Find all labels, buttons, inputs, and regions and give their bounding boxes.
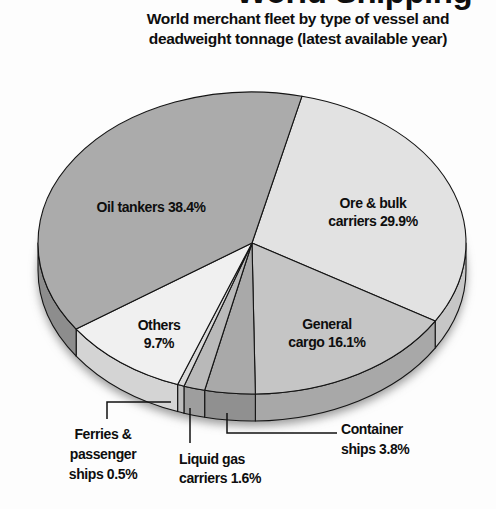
slice-label-oil-tankers: Oil tankers 38.4% bbox=[51, 198, 251, 216]
callout-label-ferries-passenger-ships: Ferries & passenger ships 0.5% bbox=[43, 424, 163, 484]
slice-label-others-line2: 9.7% bbox=[109, 334, 209, 352]
callout-label-ferries-line1: Ferries & bbox=[43, 424, 163, 444]
callout-label-liquid-line2: carriers 1.6% bbox=[179, 469, 309, 488]
slice-side-container-ships bbox=[205, 390, 256, 421]
slice-label-general-line2: cargo 16.1% bbox=[257, 333, 397, 351]
slice-side-liquid-gas-carriers bbox=[184, 386, 205, 417]
slice-label-ore-line2: carriers 29.9% bbox=[303, 212, 443, 230]
slice-label-ore-line1: Ore & bulk bbox=[303, 194, 443, 212]
callout-label-ferries-line2: passenger bbox=[43, 444, 163, 464]
slice-label-oil-tankers-line1: Oil tankers 38.4% bbox=[51, 198, 251, 216]
callout-label-ferries-line3: ships 0.5% bbox=[43, 464, 163, 484]
callout-label-liquid-gas-carriers: Liquid gas carriers 1.6% bbox=[179, 450, 309, 488]
callout-label-container-line1: Container bbox=[341, 419, 461, 439]
callout-label-container-ships: Container ships 3.8% bbox=[341, 419, 461, 459]
slice-label-general-cargo: General cargo 16.1% bbox=[257, 315, 397, 351]
slice-side-ferries-passenger-ships bbox=[178, 385, 184, 414]
callout-label-container-line2: ships 3.8% bbox=[341, 439, 461, 459]
slice-label-others: Others 9.7% bbox=[109, 316, 209, 352]
callout-label-liquid-line1: Liquid gas bbox=[179, 450, 309, 469]
slice-label-general-line1: General bbox=[257, 315, 397, 333]
slice-label-ore-bulk-carriers: Ore & bulk carriers 29.9% bbox=[303, 194, 443, 230]
slice-label-others-line1: Others bbox=[109, 316, 209, 334]
